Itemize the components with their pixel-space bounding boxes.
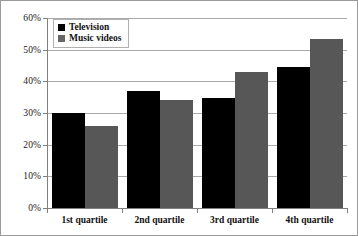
x-axis-tick-label: 3rd quartile (197, 215, 272, 225)
bar (85, 126, 118, 208)
y-axis-tick-label: 30% (1, 108, 41, 118)
bar-chart: 0%10%20%30%40%50%60% 1st quartile2nd qua… (0, 0, 358, 236)
legend-swatch-television-icon (58, 24, 65, 31)
y-axis-tick-label: 40% (1, 76, 41, 86)
y-axis-tick-label: 0% (1, 203, 41, 213)
x-axis-tick-mark (347, 208, 348, 213)
chart-legend: Television Music videos (53, 19, 129, 48)
legend-item: Music videos (58, 33, 122, 44)
x-axis-tick-mark (122, 208, 123, 213)
y-axis-tick-label: 50% (1, 45, 41, 55)
y-axis-tick-label: 10% (1, 171, 41, 181)
bar (277, 67, 310, 208)
y-axis-tick-label: 20% (1, 140, 41, 150)
bar (202, 98, 235, 208)
x-axis-tick-mark (272, 208, 273, 213)
x-axis-tick-mark (47, 208, 48, 213)
legend-label-music-videos: Music videos (69, 33, 122, 44)
bar (235, 72, 268, 208)
x-axis-tick-label: 1st quartile (47, 215, 122, 225)
x-axis-tick-label: 4th quartile (272, 215, 347, 225)
y-axis-tick-label: 60% (1, 13, 41, 23)
bar (310, 39, 343, 208)
x-axis-tick-label: 2nd quartile (122, 215, 197, 225)
bar (127, 91, 160, 208)
legend-label-television: Television (69, 22, 109, 33)
legend-item: Television (58, 22, 122, 33)
x-axis-tick-mark (197, 208, 198, 213)
bar (160, 100, 193, 208)
legend-swatch-music-videos-icon (58, 35, 65, 42)
bar (52, 113, 85, 208)
